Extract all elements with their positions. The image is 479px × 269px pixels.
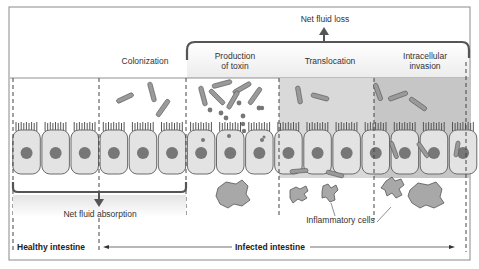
stage-toxin-line2: of toxin: [200, 61, 270, 71]
intestine-diagram: [0, 0, 479, 269]
stage-toxin-line1: Production: [200, 51, 270, 61]
stage-invasion-line1: Intracellular: [390, 51, 460, 61]
stage-invasion-label: Intracellular invasion: [390, 51, 460, 71]
stage-translocation-label: Translocation: [295, 56, 365, 66]
stage-toxin-label: Production of toxin: [200, 51, 270, 71]
inflammatory-cells-label: Inflammatory cells: [298, 215, 383, 225]
net-fluid-absorption-label: Net fluid absorption: [55, 209, 145, 219]
net-fluid-loss-label: Net fluid loss: [290, 14, 360, 24]
stage-invasion-line2: invasion: [390, 61, 460, 71]
infected-intestine-label: Infected intestine: [235, 242, 305, 252]
stage-colonization-label: Colonization: [110, 56, 180, 66]
healthy-intestine-label: Healthy intestine: [17, 242, 85, 252]
